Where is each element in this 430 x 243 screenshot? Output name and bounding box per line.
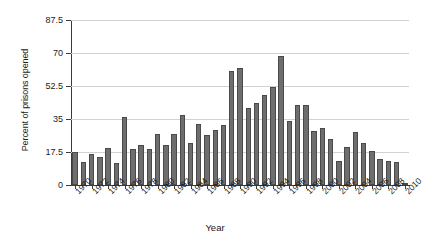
bar-chart-figure: Percent of prisons opened Year 017.53552… xyxy=(0,0,430,243)
bar xyxy=(246,108,251,185)
bar xyxy=(320,128,325,185)
bar xyxy=(237,68,242,185)
y-axis-title: Percent of prisons opened xyxy=(20,15,30,185)
y-tick-label: 70 xyxy=(53,48,63,58)
y-tick-label: 17.5 xyxy=(45,147,63,157)
bar xyxy=(270,87,275,185)
bar xyxy=(72,152,77,185)
bar xyxy=(262,95,267,185)
bar xyxy=(180,115,185,185)
x-axis-title: Year xyxy=(0,222,430,233)
bar xyxy=(295,105,300,185)
bar xyxy=(229,71,234,185)
bar xyxy=(221,125,226,185)
plot-area: 017.53552.57087.5 xyxy=(71,20,409,185)
bar-series xyxy=(71,20,409,185)
y-tick-mark xyxy=(66,185,71,186)
bar xyxy=(254,103,259,185)
y-tick-label: 35 xyxy=(53,114,63,124)
bar xyxy=(353,132,358,185)
bar xyxy=(303,105,308,185)
bar xyxy=(287,121,292,185)
y-tick-label: 87.5 xyxy=(45,15,63,25)
bar xyxy=(122,117,127,185)
y-tick-label: 0 xyxy=(58,180,63,190)
bar xyxy=(278,56,283,185)
y-tick-label: 52.5 xyxy=(45,81,63,91)
bar xyxy=(155,134,160,185)
